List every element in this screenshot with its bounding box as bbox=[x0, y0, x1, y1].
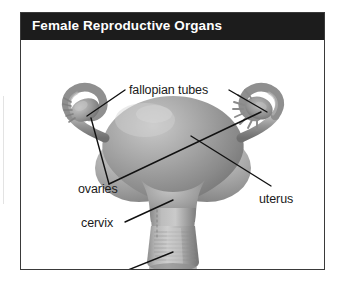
leader-ovaries-right bbox=[109, 112, 261, 184]
leader-vagina bbox=[118, 252, 173, 269]
label-uterus: uterus bbox=[259, 192, 293, 206]
scan-edge-artifact bbox=[3, 96, 4, 204]
figure-frame: Female Reproductive Organs bbox=[20, 12, 325, 270]
leader-cervix bbox=[125, 200, 173, 222]
leader-uterus bbox=[191, 136, 271, 186]
label-ovaries: ovaries bbox=[78, 182, 118, 196]
label-fallopian-tubes: fallopian tubes bbox=[129, 83, 208, 97]
leader-ovaries-left bbox=[91, 118, 109, 184]
label-cervix: cervix bbox=[81, 216, 113, 230]
leader-fallopian-right bbox=[229, 90, 267, 112]
figure-title-bar: Female Reproductive Organs bbox=[21, 13, 324, 40]
leader-fallopian-left bbox=[87, 90, 125, 116]
figure-page: Female Reproductive Organs bbox=[0, 0, 340, 284]
leader-lines bbox=[21, 40, 323, 269]
figure-title: Female Reproductive Organs bbox=[32, 18, 222, 33]
label-vagina: vagina bbox=[69, 268, 105, 269]
illustration-canvas: fallopian tubes ovaries uterus cervix va… bbox=[21, 40, 324, 269]
